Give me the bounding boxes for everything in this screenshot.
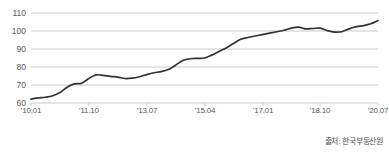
x-tick-label-1: '11.10 bbox=[66, 106, 112, 115]
x-tick-label-3: '15.04 bbox=[182, 106, 228, 115]
plot-area bbox=[0, 0, 389, 152]
series-line-housing-price-index bbox=[31, 21, 378, 99]
price-index-line-chart: 110 100 90 80 70 60 '10.01 '11.10 '13.07… bbox=[0, 0, 389, 152]
x-tick-label-4: '17.01 bbox=[240, 106, 286, 115]
x-tick-label-6: '20.07 bbox=[355, 106, 389, 115]
x-tick-label-0: '10.01 bbox=[8, 106, 54, 115]
x-tick-label-2: '13.07 bbox=[124, 106, 170, 115]
x-tick-label-5: '18.10 bbox=[297, 106, 343, 115]
source-note: 출처: 한국부동산원 bbox=[325, 135, 383, 146]
